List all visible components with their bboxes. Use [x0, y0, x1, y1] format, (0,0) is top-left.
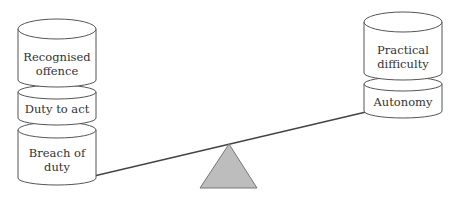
label-duty-to-act: Duty to act	[25, 102, 90, 116]
label-breach-of-duty-line2: duty	[44, 160, 70, 174]
left-stack: Breach of duty Duty to act Recognised of…	[18, 19, 96, 185]
balance-diagram: Breach of duty Duty to act Recognised of…	[0, 0, 460, 201]
fulcrum-triangle	[200, 144, 257, 188]
cylinder-autonomy: Autonomy	[364, 77, 442, 118]
label-recognised-offence-line2: offence	[36, 64, 79, 78]
label-breach-of-duty-line1: Breach of	[29, 146, 86, 160]
cylinder-breach-of-duty: Breach of duty	[18, 122, 96, 185]
label-recognised-offence-line1: Recognised	[23, 50, 91, 64]
cylinder-practical-difficulty: Practical difficulty	[364, 12, 442, 80]
right-stack: Autonomy Practical difficulty	[364, 12, 442, 118]
label-practical-difficulty-line1: Practical	[377, 43, 429, 57]
label-autonomy: Autonomy	[373, 95, 433, 109]
cylinder-duty-to-act: Duty to act	[18, 85, 96, 125]
label-practical-difficulty-line2: difficulty	[377, 57, 429, 71]
cylinder-recognised-offence: Recognised offence	[18, 19, 96, 87]
